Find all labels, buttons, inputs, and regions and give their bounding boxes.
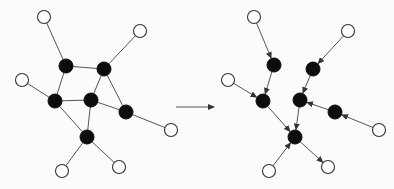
directed-edge xyxy=(307,102,328,109)
leaf-node xyxy=(248,11,261,24)
edge xyxy=(62,100,84,101)
directed-graph xyxy=(222,11,386,178)
edge xyxy=(132,115,164,128)
leaf-node xyxy=(165,124,178,137)
leaf-node xyxy=(342,25,355,38)
edge xyxy=(47,23,63,60)
internal-node xyxy=(288,130,302,144)
graph-transformation-figure xyxy=(0,0,394,189)
directed-edge xyxy=(273,143,290,166)
edge xyxy=(73,67,97,69)
leaf-node xyxy=(16,74,29,87)
leaf-node xyxy=(56,165,69,178)
edge xyxy=(88,107,90,130)
internal-node xyxy=(97,62,111,76)
directed-edge xyxy=(318,36,344,64)
leaf-node xyxy=(322,161,335,174)
leaf-node xyxy=(222,74,235,87)
edge xyxy=(57,73,64,95)
leaf-node xyxy=(373,124,386,137)
directed-edge xyxy=(265,72,272,94)
figure-svg xyxy=(0,0,394,189)
leaf-node xyxy=(134,25,147,38)
internal-node xyxy=(293,93,307,107)
internal-node xyxy=(48,94,62,108)
directed-edge xyxy=(296,107,299,130)
directed-edge xyxy=(303,75,310,93)
directed-edge xyxy=(234,83,257,97)
internal-node xyxy=(119,105,133,119)
edge xyxy=(66,143,83,166)
directed-edge xyxy=(300,142,323,163)
leaf-node xyxy=(113,161,126,174)
edge xyxy=(98,102,120,109)
leaf-node xyxy=(38,11,51,24)
directed-edge xyxy=(342,115,373,128)
undirected-graph xyxy=(16,11,178,178)
internal-node xyxy=(267,58,281,72)
internal-node xyxy=(80,130,94,144)
leaf-node xyxy=(263,165,276,178)
internal-node xyxy=(306,62,320,76)
internal-node xyxy=(84,93,98,107)
internal-node xyxy=(256,94,270,108)
directed-edge xyxy=(268,106,290,131)
internal-node xyxy=(59,59,73,73)
edge xyxy=(92,142,114,163)
edge xyxy=(107,75,123,106)
internal-node xyxy=(328,105,342,119)
directed-edge xyxy=(257,23,272,58)
edge xyxy=(60,106,83,132)
edge xyxy=(94,75,102,93)
edge xyxy=(27,83,49,97)
edge xyxy=(109,36,136,64)
